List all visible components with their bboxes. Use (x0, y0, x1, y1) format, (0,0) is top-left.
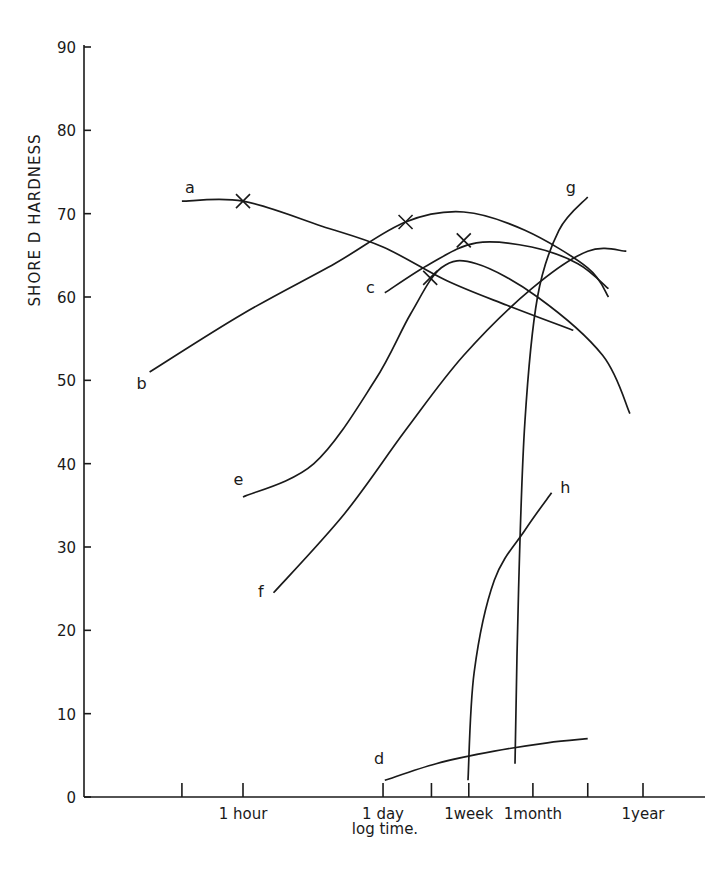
hardness-vs-time-chart: 01020304050607080901 hour1 day1week1mont… (0, 0, 727, 885)
x-tick-label: 1 hour (219, 805, 269, 823)
axes (84, 45, 705, 797)
curve-label-e: e (233, 470, 243, 489)
y-tick-label: 30 (57, 539, 76, 557)
ticks (84, 47, 643, 797)
y-tick-label: 70 (57, 206, 76, 224)
curve-label-a: a (185, 178, 195, 197)
y-tick-label: 10 (57, 706, 76, 724)
x-axis-label: log time. (352, 820, 418, 838)
y-tick-label: 50 (57, 372, 76, 390)
curve-label-c: c (366, 278, 375, 297)
x-tick-label: 1year (621, 805, 665, 823)
curve-h (468, 493, 552, 781)
curve-e (243, 261, 630, 497)
y-tick-label: 0 (66, 789, 76, 807)
curve-g (515, 197, 588, 764)
y-axis-label: SHORE D HARDNESS (26, 134, 44, 307)
curve-label-b: b (136, 374, 146, 393)
x-tick-label: 1week (444, 805, 493, 823)
x-tick-label: 1month (504, 805, 562, 823)
y-tick-label: 80 (57, 122, 76, 140)
curve-labels: abcefghd (136, 178, 575, 768)
y-tick-label: 60 (57, 289, 76, 307)
curve-label-g: g (566, 178, 576, 197)
curve-b (150, 212, 609, 372)
curve-f (274, 248, 627, 592)
curve-c (385, 242, 609, 293)
y-tick-label: 20 (57, 622, 76, 640)
markers (236, 194, 471, 285)
y-tick-label: 40 (57, 456, 76, 474)
tick-labels: 01020304050607080901 hour1 day1week1mont… (57, 39, 665, 823)
curve-a (182, 199, 573, 330)
curve-label-f: f (258, 582, 264, 601)
curve-d (385, 739, 588, 781)
curves (150, 197, 630, 780)
y-tick-label: 90 (57, 39, 76, 57)
x-marker-c (457, 233, 471, 247)
curve-label-h: h (560, 478, 570, 497)
x-marker-b (399, 215, 413, 229)
curve-label-d: d (374, 749, 384, 768)
